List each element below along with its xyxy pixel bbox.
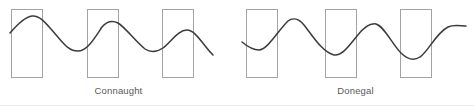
- figure-container: Connaught Donegal: [0, 0, 474, 106]
- chart-svg-donegal: [237, 0, 474, 85]
- panel-label-donegal: Donegal: [237, 84, 474, 98]
- highlight-band: [401, 10, 432, 78]
- sparkline-plot-connaught: [0, 0, 237, 85]
- highlight-band: [247, 10, 278, 78]
- bottom-divider: [0, 105, 474, 106]
- chart-panel-donegal: Donegal: [237, 0, 474, 106]
- highlight-band: [88, 10, 119, 78]
- highlight-band: [12, 10, 43, 78]
- chart-svg-connaught: [0, 0, 237, 85]
- chart-panel-connaught: Connaught: [0, 0, 237, 106]
- panel-label-connaught: Connaught: [0, 84, 237, 98]
- sparkline-plot-donegal: [237, 0, 474, 85]
